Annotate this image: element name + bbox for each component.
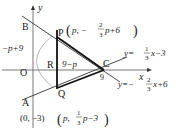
p-coord-prefix: p, −	[71, 25, 87, 35]
point-a-label: A	[22, 97, 30, 108]
x-axis-label: x	[138, 71, 144, 82]
paren-close: )	[133, 23, 138, 39]
paren-close: )	[104, 112, 109, 128]
rc-length-label: 9−p	[62, 59, 78, 69]
paren-open: (	[66, 23, 71, 39]
point-a-coordinates: (0, −3)	[20, 113, 45, 123]
y-axis-label: y	[37, 2, 43, 13]
line2-lhs: y=−	[117, 79, 134, 89]
point-b-label: B	[22, 21, 29, 32]
line2-frac-num: 2	[147, 76, 151, 84]
q-coord-suffix: p−3	[82, 113, 99, 123]
c-x-value-label: 9	[100, 73, 104, 82]
origin-label: O	[20, 67, 27, 78]
paren-open: (	[57, 112, 62, 128]
line1-equation: y= 1 3 x−3	[123, 45, 166, 62]
p-coord-suffix: p+6	[104, 25, 121, 35]
p-frac-den: 3	[99, 31, 103, 39]
point-q-coordinates: ( p, 1 3 p−3 )	[57, 109, 109, 128]
line2-rhs: x+6	[152, 79, 168, 89]
q-coord-prefix: p,	[62, 113, 70, 123]
point-r-label: R	[47, 59, 54, 70]
line1-frac-num: 1	[145, 45, 149, 53]
y-axis-arrow-icon	[31, 5, 35, 10]
point-p-label: P	[58, 27, 64, 38]
x-axis-arrow-icon	[147, 68, 152, 72]
p-frac-num: 2	[99, 21, 103, 29]
line1-lhs: y=	[123, 48, 134, 58]
segment-qc	[57, 70, 104, 88]
coordinate-diagram: y x O B A P Q R C ( p, − 2 3 p+6 ) y= 1 …	[0, 0, 191, 130]
q-frac-num: 1	[77, 109, 81, 117]
point-q-label: Q	[58, 88, 66, 99]
point-c-label: C	[103, 58, 110, 69]
q-frac-den: 3	[77, 119, 81, 127]
line1-rhs: x−3	[150, 48, 166, 58]
pq-length-label: −p+9	[2, 43, 24, 53]
line1-frac-den: 3	[145, 54, 149, 62]
line2-frac-den: 3	[147, 85, 151, 93]
point-p-coordinates: ( p, − 2 3 p+6 )	[66, 21, 138, 39]
